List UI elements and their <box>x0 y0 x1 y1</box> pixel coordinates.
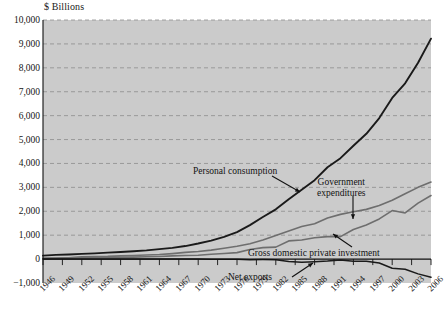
annotation-gross-domestic-private-investment: Gross domestic private investment <box>248 248 380 259</box>
annotation-personal-consumption: Personal consumption <box>193 166 277 177</box>
y-tick-label: 4,000 <box>0 158 40 168</box>
y-tick-label: 0 <box>0 254 40 264</box>
y-tick-label: 1,000 <box>0 230 40 240</box>
y-tick-label: 6,000 <box>0 111 40 121</box>
y-tick-label: −1,000 <box>0 278 40 288</box>
y-tick-label: 3,000 <box>0 182 40 192</box>
gridlines-group <box>43 20 431 235</box>
annotation-government-expenditures-line2: expenditures <box>317 188 366 198</box>
y-tick-label: 8,000 <box>0 63 40 73</box>
y-tick-label: 2,000 <box>0 206 40 216</box>
y-tick-label: 7,000 <box>0 87 40 97</box>
y-tick-label: 10,000 <box>0 15 40 25</box>
annotation-government-expenditures: Government expenditures <box>317 177 366 199</box>
series-lines-group <box>43 39 431 278</box>
y-tick-label: 5,000 <box>0 135 40 145</box>
annotation-government-expenditures-line1: Government <box>318 177 366 187</box>
axis-lines-group <box>43 20 431 283</box>
y-tick-label: 9,000 <box>0 39 40 49</box>
annotation-net-exports: Net exports <box>228 272 272 283</box>
